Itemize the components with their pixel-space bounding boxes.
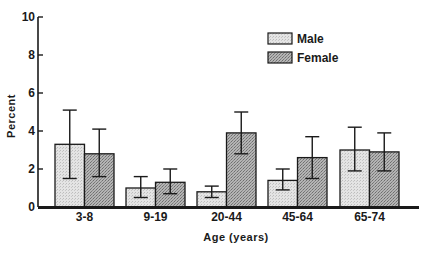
bar-group-65-74 xyxy=(340,127,399,207)
y-tick-label: 6 xyxy=(28,86,35,100)
x-axis: 3-89-1920-4445-6465-74 xyxy=(38,208,419,225)
y-tick-label: 8 xyxy=(28,48,35,62)
legend-label-male: Male xyxy=(297,32,324,46)
legend-swatch-male xyxy=(268,33,292,44)
y-tick-label: 0 xyxy=(28,200,35,214)
legend-label-female: Female xyxy=(297,51,339,65)
y-tick-label: 10 xyxy=(22,10,36,24)
bar-group-20-44 xyxy=(197,112,256,207)
legend-swatch-female xyxy=(268,52,292,63)
x-tick-label: 45-64 xyxy=(282,210,313,224)
y-tick-label: 4 xyxy=(28,124,35,138)
x-tick-label: 20-44 xyxy=(211,210,242,224)
bar-group-45-64 xyxy=(268,137,327,207)
bar-group-3-8 xyxy=(55,110,114,207)
y-tick-label: 2 xyxy=(28,162,35,176)
x-tick-label: 65-74 xyxy=(354,210,385,224)
bar-group-9-19 xyxy=(126,169,185,207)
y-axis: 0246810 xyxy=(22,10,43,214)
x-axis-title: Age (years) xyxy=(203,231,268,243)
bars-group xyxy=(55,110,399,207)
bar-chart: 0246810 3-89-1920-4445-6465-74 Percent A… xyxy=(0,0,428,255)
x-tick-label: 9-19 xyxy=(143,210,167,224)
y-axis-title: Percent xyxy=(5,94,17,138)
legend: Male Female xyxy=(268,32,339,65)
x-tick-label: 3-8 xyxy=(76,210,94,224)
